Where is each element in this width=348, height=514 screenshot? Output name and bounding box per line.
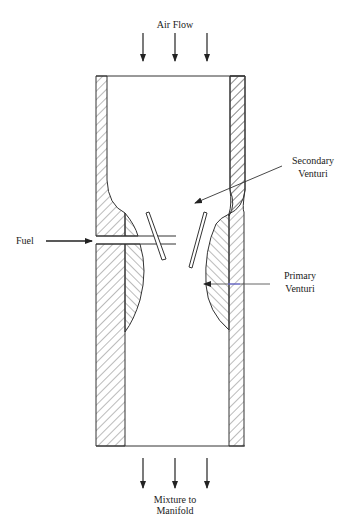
secondary-venturi-label-line2: Venturi xyxy=(283,168,343,180)
right-primary-venturi xyxy=(206,214,229,330)
primary-venturi-label-line1: Primary xyxy=(270,270,330,282)
mixture-arrows xyxy=(143,458,207,488)
primary-venturi-label-line2: Venturi xyxy=(270,283,330,295)
right-wall-shape xyxy=(229,76,245,446)
mixture-label-line2: Manifold xyxy=(140,505,210,514)
fuel-label: Fuel xyxy=(16,235,34,247)
air-flow-label: Air Flow xyxy=(150,19,200,31)
air-flow-arrows xyxy=(143,33,207,61)
secondary-venturi-label-line1: Secondary xyxy=(283,155,343,167)
carburetor-diagram xyxy=(0,0,348,514)
secondary-venturi-right-blade xyxy=(189,212,207,268)
left-primary-venturi xyxy=(125,213,138,236)
left-wall xyxy=(96,76,125,236)
left-primary-venturi-lower xyxy=(125,244,144,332)
fuel-tube xyxy=(96,236,176,244)
left-wall-lower xyxy=(96,244,125,446)
